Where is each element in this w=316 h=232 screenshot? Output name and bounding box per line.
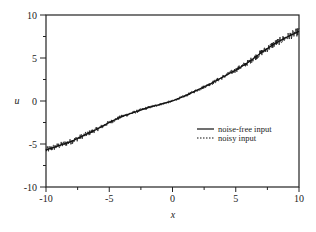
x-tick-label: -10 <box>39 193 52 204</box>
x-tick-label: 0 <box>170 193 175 204</box>
axis-ticks <box>40 15 299 192</box>
x-axis-label: x <box>170 209 176 220</box>
y-tick-label: -5 <box>29 139 37 150</box>
chart: -10-50510-10-50510 x u noise-free input … <box>0 0 316 232</box>
x-tick-label: 10 <box>294 193 304 204</box>
y-tick-label: 10 <box>27 10 37 21</box>
legend: noise-free input noisy input <box>197 124 272 143</box>
y-axis-label: u <box>15 95 20 106</box>
y-tick-label: -10 <box>24 182 37 193</box>
legend-label-noisy: noisy input <box>218 133 257 143</box>
y-tick-label: 0 <box>32 96 37 107</box>
y-tick-label: 5 <box>32 53 37 64</box>
x-tick-label: 5 <box>233 193 238 204</box>
axis-tick-labels: -10-50510-10-50510 <box>24 10 304 205</box>
x-tick-label: -5 <box>105 193 113 204</box>
